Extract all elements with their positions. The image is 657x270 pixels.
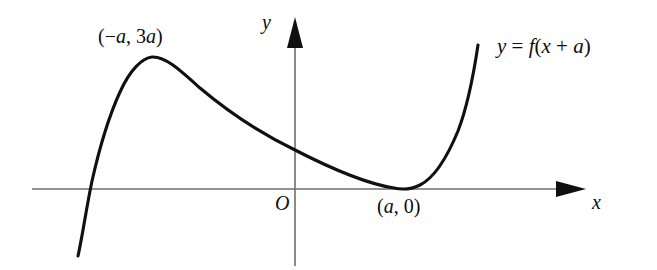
x-axis-label: x [592,192,601,212]
fn-var-x: x [542,34,551,58]
fn-plus: + [551,34,573,58]
max-close-paren: ) [156,25,163,47]
min-close-paren: ) [414,195,421,217]
min-var-a: a [384,195,394,217]
origin-label: O [275,193,289,213]
y-axis-arrow-icon [287,17,303,48]
min-open-paren: ( [377,195,384,217]
graph-figure: (−a, 3a) (a, 0) O x y y = f(x + a) [0,0,657,270]
label-maximum-point: (−a, 3a) [98,26,163,46]
max-var-a2: a [146,25,156,47]
function-equation-label: y = f(x + a) [497,36,591,57]
y-axis-label: y [262,12,271,32]
min-zero: 0 [404,195,414,217]
max-coefficient: 3 [136,25,146,47]
max-var-a: a [116,25,126,47]
fn-var-y: y [497,34,506,58]
label-minimum-point: (a, 0) [377,196,420,216]
fn-open-paren: ( [535,34,542,58]
function-curve [78,45,478,256]
x-axis-arrow-icon [556,181,586,197]
fn-equals: = [506,34,528,58]
fn-var-a: a [573,34,584,58]
max-minus-sign: − [105,25,116,47]
max-open-paren: ( [98,25,105,47]
max-comma: , [126,25,136,47]
fn-close-paren: ) [584,34,591,58]
min-comma: , [394,195,404,217]
